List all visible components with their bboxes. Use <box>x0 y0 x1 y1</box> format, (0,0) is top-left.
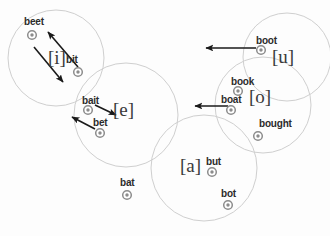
vowel-symbol-label: [i] <box>48 48 66 67</box>
arrows-layer <box>34 32 256 129</box>
vowel-symbol-label: [u] <box>272 47 294 66</box>
word-label-beet: beet <box>24 17 44 27</box>
word-label-boat: boat <box>221 95 241 105</box>
data-point-marker[interactable] <box>96 129 105 138</box>
vowel-symbol-label: [o] <box>249 87 271 106</box>
data-point-marker[interactable] <box>84 106 93 115</box>
data-point-marker[interactable] <box>28 31 37 40</box>
vowel-space-diagram: beetbitbaitbetbatbootbookboatboughtbutbo… <box>0 0 330 236</box>
vowel-region-circle <box>151 115 257 221</box>
word-label-bought: bought <box>259 119 292 129</box>
data-point-marker[interactable] <box>74 68 83 77</box>
data-point-marker[interactable] <box>254 132 263 141</box>
word-label-but: but <box>206 157 221 167</box>
word-label-bit: bit <box>66 55 78 65</box>
data-point-marker[interactable] <box>123 191 132 200</box>
vowel-symbol-label: [e] <box>113 100 134 119</box>
word-label-boot: boot <box>256 36 277 46</box>
word-label-bot: bot <box>221 189 236 199</box>
word-label-bait: bait <box>82 96 99 106</box>
word-label-bet: bet <box>93 118 107 128</box>
data-point-marker[interactable] <box>224 201 233 210</box>
data-point-marker[interactable] <box>227 106 236 115</box>
vowel-symbol-label: [a] <box>180 156 201 175</box>
data-point-marker[interactable] <box>208 168 217 177</box>
data-point-marker[interactable] <box>257 46 266 55</box>
word-label-bat: bat <box>120 178 134 188</box>
